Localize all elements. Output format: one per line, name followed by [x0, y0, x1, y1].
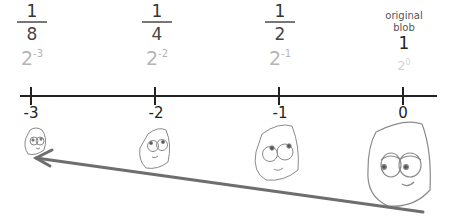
tick-label-neg3: -3: [16, 104, 46, 122]
tick-label-neg1: -1: [265, 104, 295, 122]
tick-label-zero: 0: [388, 104, 418, 122]
blob-neg3: [25, 128, 46, 155]
shrink-arrow: [36, 150, 423, 212]
blob-neg1: [255, 125, 298, 180]
blob-neg2: [140, 129, 170, 169]
blob-original: [368, 122, 431, 206]
tick-label-neg2: -2: [141, 104, 171, 122]
